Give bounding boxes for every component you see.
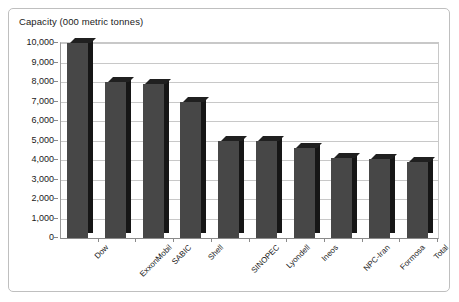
bar-top-face	[183, 97, 209, 102]
y-axis-tick-label: 9,000	[8, 57, 54, 67]
y-axis-tick-label: 1,000	[8, 213, 54, 223]
bar-front-face	[331, 158, 352, 238]
bar	[331, 158, 352, 238]
x-axis-tick-mark	[286, 238, 287, 242]
bar	[180, 102, 201, 239]
y-axis-tick-mark	[54, 140, 58, 141]
bar-top-face	[108, 77, 134, 82]
bar	[256, 141, 277, 238]
bars-layer	[61, 43, 438, 238]
chart-title: Capacity (000 metric tonnes)	[19, 16, 143, 27]
x-axis-tick-mark	[362, 238, 363, 242]
y-axis-tick-mark	[54, 42, 58, 43]
y-axis-tick-label: 10,000	[8, 37, 54, 47]
bar-front-face	[256, 141, 277, 238]
bar	[218, 141, 239, 239]
x-axis-tick-label: NPC-Iran	[362, 243, 392, 273]
bar-side-face	[315, 143, 320, 233]
y-axis-tick-mark	[54, 62, 58, 63]
y-axis-tick-label: 4,000	[8, 154, 54, 164]
bar-side-face	[88, 38, 93, 233]
x-axis-tick-mark	[211, 238, 212, 242]
x-axis-tick-mark	[437, 238, 438, 242]
y-axis-tick-mark	[54, 81, 58, 82]
bar-front-face	[218, 141, 239, 239]
bar	[294, 148, 315, 238]
x-axis-tick-mark	[98, 238, 99, 242]
bar-side-face	[352, 153, 357, 233]
x-axis-tick-label: ExxonMobil	[138, 243, 174, 279]
y-axis-tick-mark	[54, 101, 58, 102]
x-axis-tick-label: Lyondell	[285, 243, 312, 270]
x-axis-tick-label: SINOPEC	[249, 243, 281, 275]
y-axis-tick-label: 3,000	[8, 174, 54, 184]
bar-front-face	[67, 43, 88, 238]
bar	[369, 159, 390, 238]
x-axis-tick-mark	[249, 238, 250, 242]
bar-side-face	[390, 154, 395, 233]
bar-side-face	[277, 136, 282, 233]
bar-front-face	[180, 102, 201, 239]
bar-top-face	[221, 136, 247, 141]
x-axis-tick-mark	[324, 238, 325, 242]
x-axis-tick-label: SABIC	[170, 243, 193, 266]
x-axis-tick-label: Formosa	[399, 243, 428, 272]
x-axis-labels: DowExxonMobilSABICShellSINOPECLyondellIn…	[60, 243, 438, 291]
y-axis-tick-mark	[54, 218, 58, 219]
bar	[143, 84, 164, 238]
x-axis-tick-mark	[399, 238, 400, 242]
bar-chart-figure: Capacity (000 metric tonnes) 10,0009,000…	[0, 0, 459, 302]
y-axis-tick-mark	[54, 159, 58, 160]
x-axis-tick-mark	[135, 238, 136, 242]
y-axis-tick-label: 5,000	[8, 135, 54, 145]
bar	[105, 82, 126, 238]
bar-front-face	[105, 82, 126, 238]
y-axis-tick-label: 6,000	[8, 115, 54, 125]
x-axis-tick-label: Shell	[206, 243, 225, 262]
bar-side-face	[201, 97, 206, 234]
y-axis-tick-label: 7,000	[8, 96, 54, 106]
y-axis-tick-label: 8,000	[8, 76, 54, 86]
x-axis-tick-label: Ineos	[320, 243, 340, 263]
y-axis-tick-mark	[54, 198, 58, 199]
y-axis-labels: 10,0009,0008,0007,0006,0005,0004,0003,00…	[6, 42, 54, 238]
y-axis-tick-label: 0	[8, 232, 54, 242]
y-axis-tick-mark	[54, 179, 58, 180]
plot-area	[60, 42, 439, 239]
y-axis-tick-label: 2,000	[8, 193, 54, 203]
bar-front-face	[407, 162, 428, 238]
bar	[407, 162, 428, 238]
y-axis-tick-mark	[54, 120, 58, 121]
bar-front-face	[369, 159, 390, 238]
bar-side-face	[126, 77, 131, 233]
bar-side-face	[239, 136, 244, 234]
bar-front-face	[294, 148, 315, 238]
y-axis-tick-mark	[54, 237, 58, 238]
bar	[67, 43, 88, 238]
bar-side-face	[428, 157, 433, 233]
x-axis-tick-label: Dow	[93, 243, 111, 261]
bar-side-face	[164, 79, 169, 233]
bar-front-face	[143, 84, 164, 238]
x-axis-tick-mark	[173, 238, 174, 242]
